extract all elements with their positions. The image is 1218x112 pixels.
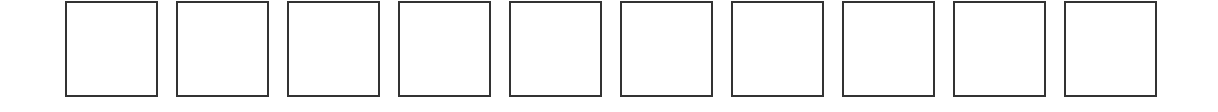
box-row [65, 1, 1157, 97]
empty-box-2[interactable] [176, 1, 269, 97]
empty-box-3[interactable] [287, 1, 380, 97]
empty-box-5[interactable] [509, 1, 602, 97]
empty-box-10[interactable] [1064, 1, 1157, 97]
empty-box-9[interactable] [953, 1, 1046, 97]
empty-box-8[interactable] [842, 1, 935, 97]
empty-box-4[interactable] [398, 1, 491, 97]
empty-box-7[interactable] [731, 1, 824, 97]
empty-box-6[interactable] [620, 1, 713, 97]
empty-box-1[interactable] [65, 1, 158, 97]
